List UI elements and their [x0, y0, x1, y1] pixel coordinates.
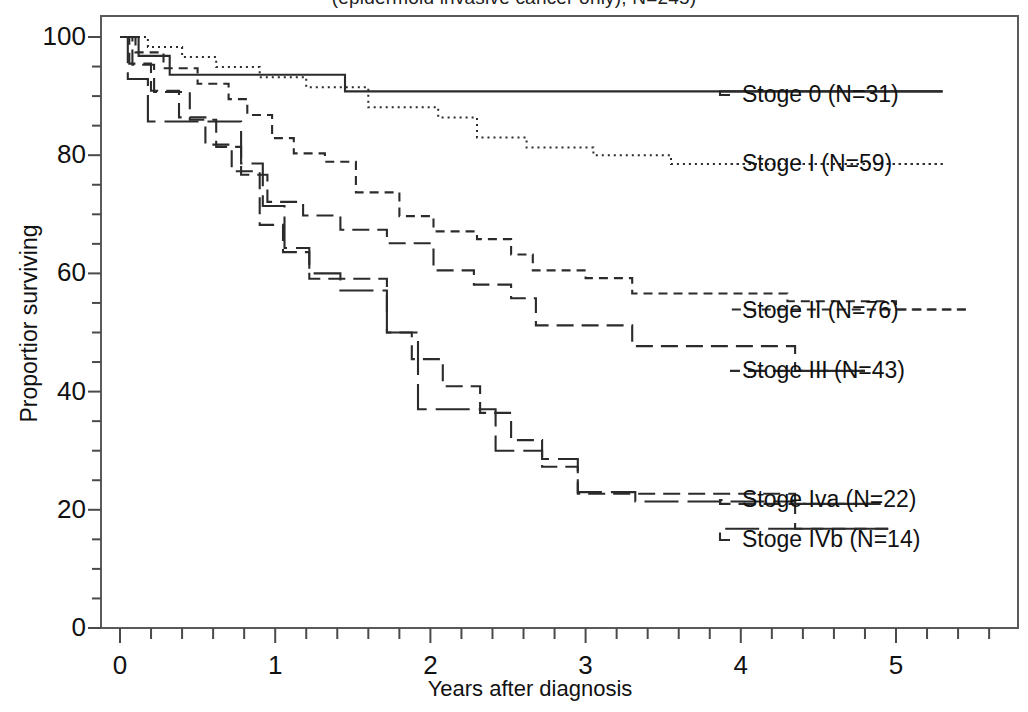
legend-label-0: Stoge 0 (N=31) [742, 83, 899, 106]
legend-label-4: Stoge Iva (N=22) [742, 488, 917, 511]
y-axis-title: Proportior surviving [16, 174, 43, 474]
x-axis-title: Years after diagnosis [330, 676, 730, 702]
legend-label-2: Stoge II (N=76) [742, 299, 899, 322]
legend-label-5: Stoge IVb (N=14) [742, 528, 920, 551]
legend-label-3: Stoge III (N=43) [742, 359, 905, 382]
legend-label-1: Stoge I (N=59) [742, 152, 892, 175]
legend: Stoge 0 (N=31)Stoge I (N=59)Stoge II (N=… [0, 0, 1028, 712]
survival-chart-figure: (epidermoid invasive cancer only), N=245… [0, 0, 1028, 712]
